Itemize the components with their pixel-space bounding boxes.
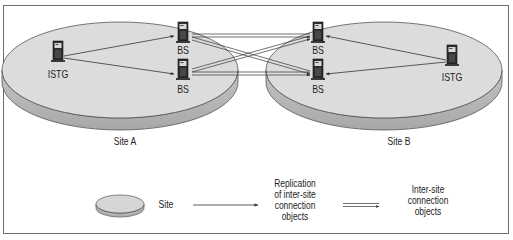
server-icon xyxy=(311,22,325,43)
site-a-disc xyxy=(2,22,238,130)
istg-b-label: ISTG xyxy=(441,72,463,83)
legend-text-line: objects xyxy=(400,206,456,217)
legend-replication-label: Replication of inter-site connection obj… xyxy=(267,178,323,222)
legend-site-label: Site xyxy=(155,199,177,210)
server-icon xyxy=(445,45,459,66)
legend-connection-double-arrow xyxy=(343,204,379,207)
bs-b2-label: BS xyxy=(310,84,326,95)
legend-text-line: objects xyxy=(267,211,323,222)
server-icon xyxy=(311,59,325,80)
legend-intersite-label: Inter-site connection objects xyxy=(400,184,456,217)
site-a-label: Site A xyxy=(106,136,145,147)
server-icon xyxy=(176,59,190,80)
server-icon xyxy=(51,41,65,62)
legend-site-icon xyxy=(96,195,144,217)
bs-b1-label: BS xyxy=(310,45,326,56)
server-icon xyxy=(176,22,190,43)
bs-a2-label: BS xyxy=(175,84,191,95)
istg-a-label: ISTG xyxy=(47,69,69,80)
site-b-label: Site B xyxy=(380,136,419,147)
bs-a1-label: BS xyxy=(175,45,191,56)
